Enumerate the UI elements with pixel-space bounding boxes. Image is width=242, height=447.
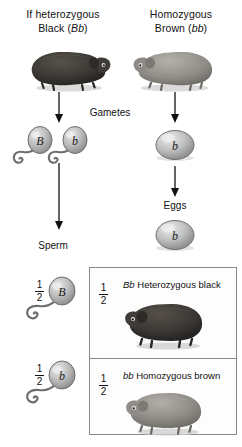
offspring-phenotype-brown: Homozygous brown xyxy=(134,370,221,381)
offspring-fraction-brown: 1 2 xyxy=(99,368,108,397)
father-label: If heterozygous Black (Bb) xyxy=(8,8,118,35)
fraction-denominator: 2 xyxy=(101,295,107,306)
sperm-allele-b-text: b xyxy=(72,134,78,148)
mother-label-line2: Brown (bb) xyxy=(155,22,207,34)
egg-cell-result: b xyxy=(150,218,200,256)
father-genotype: Bb xyxy=(71,22,84,34)
eggs-label: Eggs xyxy=(143,200,207,211)
gamete-egg-b: b xyxy=(150,128,200,166)
arrow-father-to-gametes xyxy=(50,92,68,124)
offspring-phenotype-black: Heterozygous black xyxy=(135,279,221,290)
offspring-genotype-black: Bb xyxy=(123,279,135,290)
arrow-gametes-to-sperm xyxy=(50,163,68,231)
arrow-gamete-to-eggs xyxy=(166,166,184,198)
sperm-row-allele-B-text: B xyxy=(58,285,66,299)
black-guinea-pig-offspring xyxy=(122,296,208,354)
father-label-line2: Black (Bb) xyxy=(38,22,87,34)
offspring-results-box: 1 2 Bb Heterozygous black xyxy=(89,267,237,435)
gametes-label: Gametes xyxy=(78,107,142,118)
mother-genotype: bb xyxy=(192,22,204,34)
sperm-cell-b: b xyxy=(22,362,80,408)
fraction-denominator: 2 xyxy=(101,386,107,397)
fraction-numerator: 1 xyxy=(101,283,107,294)
egg-result-allele-text: b xyxy=(172,229,178,243)
brown-guinea-pig-offspring xyxy=(122,386,208,438)
egg-allele-b-text: b xyxy=(172,139,178,153)
offspring-row-brown: 1 2 bb Homozygous brown xyxy=(90,359,236,434)
fraction-one-half: 1 2 xyxy=(99,374,108,397)
offspring-fraction-black: 1 2 xyxy=(99,277,108,306)
sperm-row-allele-b-text: b xyxy=(59,369,65,383)
father-label-line1: If heterozygous xyxy=(26,8,99,20)
mother-label-line1: Homozygous xyxy=(150,8,212,20)
arrow-mother-to-gametes xyxy=(166,92,184,124)
offspring-caption-black: Bb Heterozygous black xyxy=(123,279,221,290)
offspring-caption-brown: bb Homozygous brown xyxy=(123,370,220,381)
offspring-row-black: 1 2 Bb Heterozygous black xyxy=(90,268,236,358)
brown-guinea-pig xyxy=(128,44,220,94)
mother-label: Homozygous Brown (bb) xyxy=(126,8,236,35)
fraction-one-half: 1 2 xyxy=(99,283,108,306)
offspring-genotype-brown: bb xyxy=(123,370,134,381)
black-guinea-pig xyxy=(24,44,114,94)
sperm-allele-B-text: B xyxy=(36,134,44,148)
sperm-label: Sperm xyxy=(22,240,84,251)
fraction-numerator: 1 xyxy=(101,374,107,385)
sperm-cell-B: B xyxy=(22,278,80,324)
